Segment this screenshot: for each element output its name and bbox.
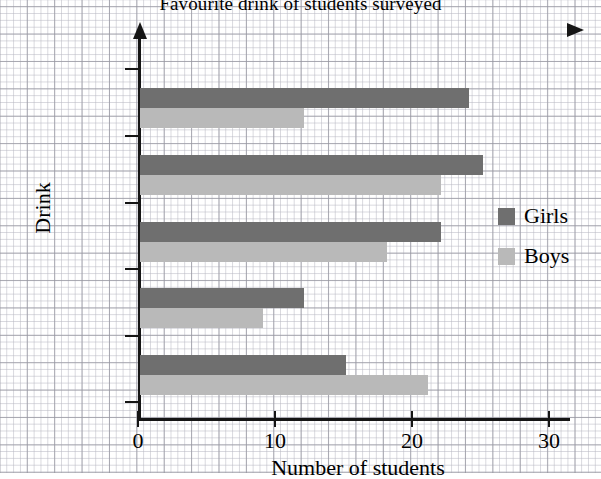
y-tick-cola (125, 335, 139, 337)
bar-girls-lemon-tea (140, 288, 304, 308)
bar-girls-orange (140, 155, 483, 175)
x-tick-label-30: 30 (527, 430, 571, 452)
x-tick-10 (274, 411, 276, 427)
y-tick-base (125, 401, 139, 403)
x-tick-label-20: 20 (390, 430, 434, 452)
bar-girls-lime (140, 88, 469, 108)
y-axis-title: Drink (30, 182, 56, 233)
y-tick-grape (125, 202, 139, 204)
bar-boys-orange (140, 175, 441, 195)
x-axis-line (138, 418, 570, 421)
bar-girls-cola (140, 355, 346, 375)
legend-swatch-girls-icon (498, 208, 515, 225)
legend-label-boys: Boys (524, 245, 569, 267)
y-tick-lemon-tea (125, 268, 139, 270)
bar-boys-cola (140, 375, 428, 395)
y-tick-orange (125, 135, 139, 137)
x-tick-20 (411, 411, 413, 427)
bar-girls-grape (140, 222, 441, 242)
x-tick-0 (137, 411, 139, 427)
chart-legend: Girls Boys (498, 205, 569, 285)
x-tick-30 (548, 411, 550, 427)
y-axis-arrow-icon (133, 22, 147, 39)
x-tick-label-10: 10 (253, 430, 297, 452)
x-axis-arrow-icon (567, 23, 584, 37)
bar-boys-grape (140, 242, 387, 262)
legend-item-boys: Boys (498, 245, 569, 267)
x-axis-title: Number of students (98, 455, 601, 479)
bar-boys-lemon-tea (140, 308, 263, 328)
x-tick-label-0: 0 (116, 430, 160, 452)
legend-item-girls: Girls (498, 205, 569, 227)
legend-label-girls: Girls (524, 205, 568, 227)
chart-title: Favourite drink of students surveyed (0, 0, 601, 15)
legend-swatch-boys-icon (498, 248, 515, 265)
y-tick-lime (125, 68, 139, 70)
bar-boys-lime (140, 108, 304, 128)
